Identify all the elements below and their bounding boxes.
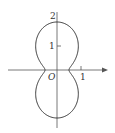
x-axis-arrow-icon (102, 68, 108, 73)
x-label-1: 1 (80, 72, 86, 82)
y-label-2: 2 (50, 11, 56, 21)
y-label-1: 1 (49, 41, 55, 51)
polar-curve-diagram: 2 1 1 O (0, 0, 115, 133)
origin-label: O (48, 72, 56, 82)
